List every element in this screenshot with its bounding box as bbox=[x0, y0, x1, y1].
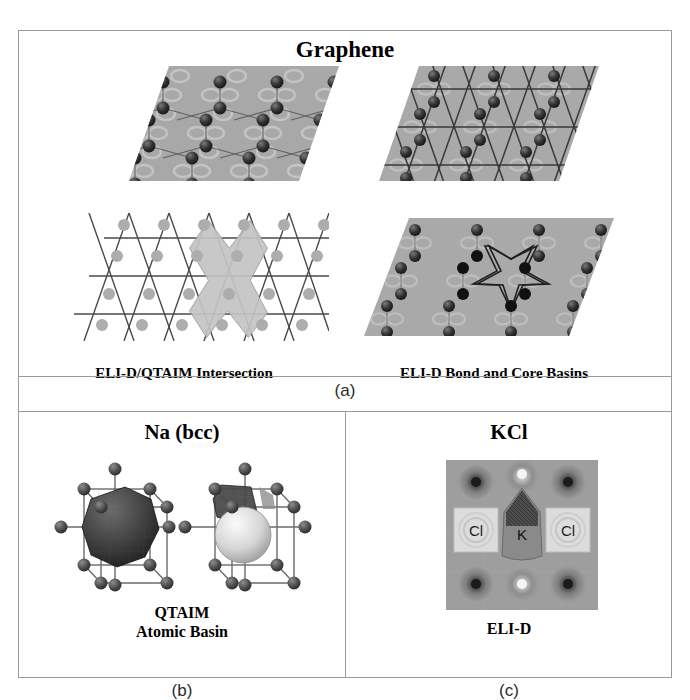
section-kcl: KCl bbox=[346, 412, 672, 677]
graphene-title: Graphene bbox=[19, 37, 671, 63]
caption-c: (c) bbox=[346, 681, 672, 700]
panel-label-intersection: ELI-D/QTAIM Intersection bbox=[19, 366, 349, 382]
caption-b: (b) bbox=[19, 681, 345, 700]
kcl-atom-label-cl-right: Cl bbox=[561, 522, 575, 539]
panel-label-qtaim-atomic-basin-line2: Atomic Basin bbox=[19, 624, 345, 641]
panel-image-eli-d bbox=[124, 61, 344, 186]
na-bcc-title: Na (bcc) bbox=[19, 420, 345, 445]
panel-image-intersection bbox=[29, 213, 329, 341]
bcc-cluster-right bbox=[179, 463, 312, 592]
bcc-cluster-left bbox=[55, 463, 176, 592]
caption-a: (a) bbox=[19, 381, 671, 401]
panel-label-kcl-eli-d: ELI-D bbox=[346, 621, 672, 638]
panel-image-kcl-contour: Cl K Cl bbox=[446, 460, 598, 610]
kcl-atom-label-k: K bbox=[517, 526, 527, 543]
separator-above-caption-a bbox=[19, 376, 671, 377]
panel-image-bcc-clusters bbox=[39, 457, 329, 592]
panel-label-qtaim-atomic-basin-line1: QTAIM bbox=[19, 605, 345, 622]
panel-label-bond-core: ELI-D Bond and Core Basins bbox=[349, 366, 639, 382]
panel-image-bond-core bbox=[359, 213, 619, 341]
kcl-atom-label-cl-left: Cl bbox=[469, 522, 483, 539]
figure-frame: Graphene bbox=[18, 30, 672, 678]
separator-above-captions-bc bbox=[19, 677, 671, 678]
section-na-bcc: Na (bcc) bbox=[19, 412, 345, 677]
kcl-title: KCl bbox=[346, 420, 672, 445]
panel-image-qtaim-basins bbox=[374, 61, 604, 186]
na-core-sphere bbox=[215, 507, 271, 563]
qtaim-basin-polyhedron bbox=[82, 487, 159, 567]
